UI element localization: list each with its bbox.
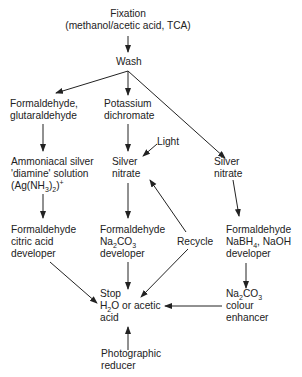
node-photographic-reducer: Photographic reducer xyxy=(101,348,161,372)
text: CO xyxy=(243,288,258,299)
line: reducer xyxy=(101,360,161,372)
arrow-silver-nitrate-to-nabh4-developer xyxy=(233,180,239,216)
line: nitrate xyxy=(112,168,140,180)
line: enhancer xyxy=(226,312,268,324)
node-silver-nitrate-middle: Silver nitrate xyxy=(112,156,140,180)
formula-line: H2O or acetic xyxy=(100,300,161,312)
line: developer xyxy=(226,248,291,260)
node-wash: Wash xyxy=(116,56,142,68)
line: Formaldehyde xyxy=(226,224,291,236)
line: 'diamine' solution xyxy=(11,168,94,180)
line: Photographic xyxy=(101,348,161,360)
node-silver-nitrate-right: Silver nitrate xyxy=(214,156,242,180)
formula-line: NaBH4, NaOH xyxy=(226,236,291,248)
arrow-citric-developer-to-stop xyxy=(50,262,97,303)
line: Formaldehyde, xyxy=(10,98,78,110)
node-citric-developer: Formaldehyde citric acid developer xyxy=(11,224,76,260)
node-fixation: Fixation (methanol/acetic acid, TCA) xyxy=(53,8,203,32)
wash-label: Wash xyxy=(116,56,142,68)
node-potassium-dichromate: Potassium dichromate xyxy=(104,98,154,122)
line: citric acid xyxy=(11,236,76,248)
text: NaBH xyxy=(226,236,253,247)
line: Recycle xyxy=(177,236,213,248)
text: Na xyxy=(100,236,113,247)
line: Formaldehyde xyxy=(11,224,76,236)
node-recycle: Recycle xyxy=(177,236,213,248)
fixation-title: Fixation xyxy=(53,8,203,20)
formula-line: Na2CO3 xyxy=(100,236,165,248)
node-light: Light xyxy=(157,136,179,148)
line: Silver xyxy=(214,156,242,168)
fixation-detail: (methanol/acetic acid, TCA) xyxy=(53,20,203,32)
line: nitrate xyxy=(214,168,242,180)
formula-line: (Ag(NH3)2)+ xyxy=(11,180,94,192)
superscript: + xyxy=(60,179,64,186)
node-stop: Stop H2O or acetic acid xyxy=(100,288,161,324)
text: O or acetic xyxy=(111,300,160,311)
line: Potassium xyxy=(104,98,154,110)
line: Stop xyxy=(100,288,161,300)
text: Na xyxy=(226,288,239,299)
node-formaldehyde-glutaraldehyde: Formaldehyde, glutaraldehyde xyxy=(10,98,78,122)
arrow-wash-to-formaldehyde-glutaraldehyde xyxy=(56,71,128,93)
line: Ammoniacal silver xyxy=(11,156,94,168)
text: , NaOH xyxy=(257,236,291,247)
line: dichromate xyxy=(104,110,154,122)
text: (Ag(NH xyxy=(11,180,45,191)
arrow-light-to-silver-nitrate xyxy=(143,144,157,156)
node-na2co3-developer: Formaldehyde Na2CO3 developer xyxy=(100,224,165,260)
node-nabh4-developer: Formaldehyde NaBH4, NaOH developer xyxy=(226,224,291,260)
node-colour-enhancer: Na2CO3 colour enhancer xyxy=(226,288,268,324)
subscript: 3 xyxy=(258,294,262,301)
formula-line: Na2CO3 xyxy=(226,288,268,300)
line: developer xyxy=(100,248,165,260)
line: colour xyxy=(226,300,268,312)
line: glutaraldehyde xyxy=(10,110,78,122)
line: acid xyxy=(100,312,161,324)
node-ammoniacal-silver: Ammoniacal silver 'diamine' solution (Ag… xyxy=(11,156,94,192)
line: developer xyxy=(11,248,76,260)
line: Formaldehyde xyxy=(100,224,165,236)
line: Silver xyxy=(112,156,140,168)
line: Light xyxy=(157,136,179,148)
text: CO xyxy=(117,236,132,247)
